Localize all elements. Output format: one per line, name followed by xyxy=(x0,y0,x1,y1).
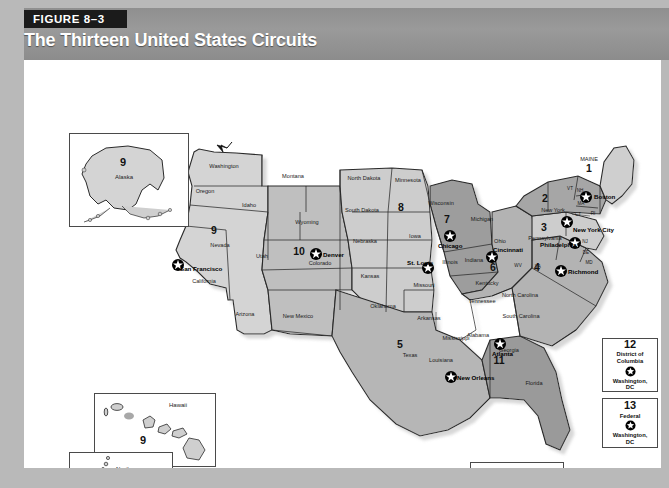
puerto-rico-shape xyxy=(471,463,563,468)
washington-pointer-line xyxy=(227,142,232,148)
star-in-circle-icon xyxy=(625,366,636,377)
circuit-box-12-name: District of Columbia xyxy=(616,351,643,364)
city-label-new-orleans: New Orleans xyxy=(457,374,495,381)
circuit-5-region xyxy=(332,290,490,436)
state-label-illinois: Illinois xyxy=(442,259,458,265)
washington-pointer-arrow xyxy=(217,145,227,152)
state-label-kentucky: Kentucky xyxy=(475,280,498,286)
state-label-louisiana: Louisiana xyxy=(429,357,454,363)
city-label-atlanta: Atlanta xyxy=(492,350,514,357)
figure-container: FIGURE 8–3 The Thirteen United States Ci… xyxy=(0,0,669,488)
circuit-number-3: 3 xyxy=(541,221,547,233)
state-label-ohio: Ohio xyxy=(494,238,506,244)
state-label-alabama: Alabama xyxy=(467,332,490,338)
circuit-number-4: 4 xyxy=(534,261,540,273)
inset-puerto-rico: 1 Puerto Rico xyxy=(470,462,564,468)
state-label-md: MD xyxy=(585,260,593,265)
state-label-south-dakota: South Dakota xyxy=(345,207,380,213)
inset-alaska: 9 Alaska xyxy=(69,133,189,227)
state-label-kansas: Kansas xyxy=(361,273,380,279)
city-label-chicago: Chicago xyxy=(438,242,463,249)
city-label-richmond: Richmond xyxy=(568,268,598,275)
circuit-number-1: 1 xyxy=(586,162,592,174)
mariana-label-line-0: Northern xyxy=(116,466,139,468)
circuit-number-9: 9 xyxy=(211,224,217,236)
figure-tag: FIGURE 8–3 xyxy=(24,10,127,28)
circuit-box-12-name-line-1: Columbia xyxy=(616,358,643,365)
state-label-vt: VT xyxy=(567,186,573,191)
state-label-oklahoma: Oklahoma xyxy=(370,303,396,309)
star-in-circle-icon xyxy=(625,420,636,431)
state-label-missouri: Missouri xyxy=(414,282,435,288)
circuit-box-13-city-line-1: DC xyxy=(613,439,648,446)
city-label-cincinnati: Cincinnati xyxy=(493,246,523,253)
map-panel: WashingtonOregonIdahoMontanaWyomingNevad… xyxy=(24,60,661,468)
circuit-number-7: 7 xyxy=(444,213,450,225)
city-label-philadelphia: Philadelphia xyxy=(540,241,577,248)
city-label-denver: Denver xyxy=(323,251,345,258)
state-label-nh: NH xyxy=(577,188,584,193)
mainland-usa-shape xyxy=(176,146,634,450)
state-label-wv: WV xyxy=(514,263,522,268)
circuit-number-8: 8 xyxy=(398,201,404,213)
state-label-new-mexico: New Mexico xyxy=(283,313,313,319)
state-label-washington: Washington xyxy=(209,163,238,169)
circuit-box-12-city-line-1: DC xyxy=(613,384,648,391)
circuit-box-13-number: 13 xyxy=(624,400,636,412)
state-label-de: DE xyxy=(583,250,589,255)
state-label-utah: Utah xyxy=(256,253,268,259)
alaska-shape xyxy=(70,134,188,226)
state-label-california: California xyxy=(192,278,217,284)
state-label-wyoming: Wyoming xyxy=(295,219,318,225)
state-label-nevada: Nevada xyxy=(210,242,230,248)
state-label-idaho: Idaho xyxy=(242,202,256,208)
state-label-ct: CT xyxy=(575,212,581,217)
state-label-oregon: Oregon xyxy=(196,188,215,194)
city-label-new-york-city: New York City xyxy=(573,226,615,233)
mariana-label: Northern Mariana Islands xyxy=(116,466,139,468)
circuit-box-12-name-line-0: District of xyxy=(616,351,643,358)
circuit-box-13: 13 Federal Washington, DC xyxy=(602,398,658,448)
city-label-san-francisco: San Francisco xyxy=(180,265,223,272)
hawaii-circuit-number: 9 xyxy=(140,434,146,446)
state-label-nebraska: Nebraska xyxy=(353,238,378,244)
state-label-south-carolina: South Carolina xyxy=(502,313,540,319)
circuit-box-12-city: Washington, DC xyxy=(613,378,648,391)
state-label-north-dakota: North Dakota xyxy=(348,175,382,181)
alaska-label: Alaska xyxy=(115,174,133,180)
state-label-texas: Texas xyxy=(403,352,418,358)
state-label-arkansas: Arkansas xyxy=(417,315,441,321)
circuit-number-10: 10 xyxy=(293,245,305,257)
state-label-indiana: Indiana xyxy=(465,257,484,263)
circuit-box-12: 12 District of Columbia Washington, DC xyxy=(602,338,658,392)
circuit-box-13-city-line-0: Washington, xyxy=(613,432,648,439)
state-label-nj: NJ xyxy=(582,239,588,244)
state-label-new-york: New York xyxy=(541,207,565,213)
circuit-box-13-name: Federal xyxy=(620,413,641,420)
state-label-ri: RI xyxy=(591,211,596,216)
circuit-number-5: 5 xyxy=(397,338,403,350)
inset-northern-mariana-islands: Northern Mariana Islands Guam xyxy=(69,452,173,468)
city-label-st-louis: St. Louis xyxy=(407,259,434,266)
state-label-colorado: Colorado xyxy=(309,260,332,266)
state-label-tennessee: Tennessee xyxy=(468,298,495,304)
figure-title: The Thirteen United States Circuits xyxy=(24,30,317,51)
circuit-box-12-number: 12 xyxy=(624,339,636,351)
state-label-wisconsin: Wisconsin xyxy=(428,200,454,206)
state-label-mississippi: Mississippi xyxy=(442,335,469,341)
city-label-boston: Boston xyxy=(594,193,616,200)
state-label-arizona: Arizona xyxy=(236,311,256,317)
circuit-box-12-city-line-0: Washington, xyxy=(613,378,648,385)
circuit-number-2: 2 xyxy=(542,192,548,204)
state-label-montana: Montana xyxy=(282,173,305,179)
circuit-7-region xyxy=(430,180,498,294)
state-label-florida: Florida xyxy=(525,380,543,386)
circuit-box-13-city: Washington, DC xyxy=(613,432,648,445)
alaska-circuit-number: 9 xyxy=(120,156,126,168)
state-label-iowa: Iowa xyxy=(409,233,422,239)
state-label-north-carolina: North Carolina xyxy=(502,292,539,298)
hawaii-label: Hawaii xyxy=(169,402,187,408)
state-label-michigan: Michigan xyxy=(471,216,493,222)
alaska-aleutians xyxy=(84,206,170,222)
circuit-box-13-name-line-0: Federal xyxy=(620,413,641,420)
